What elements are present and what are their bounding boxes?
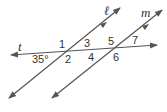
angle-label-1: 1 (59, 38, 65, 50)
angle-label-6: 6 (113, 51, 119, 63)
angle-label-4: 4 (88, 51, 94, 63)
angle-label-7: 7 (132, 34, 138, 46)
label-l: ℓ (104, 3, 110, 18)
angle-label-35-degrees: 35° (32, 53, 49, 65)
diagram-canvas: t ℓ m 1 2 3 4 5 6 7 35° (0, 0, 167, 112)
angle-label-5: 5 (108, 35, 114, 47)
angle-label-3: 3 (84, 37, 90, 49)
angle-label-2: 2 (65, 53, 71, 65)
label-m: m (141, 5, 150, 20)
label-t: t (18, 39, 22, 54)
